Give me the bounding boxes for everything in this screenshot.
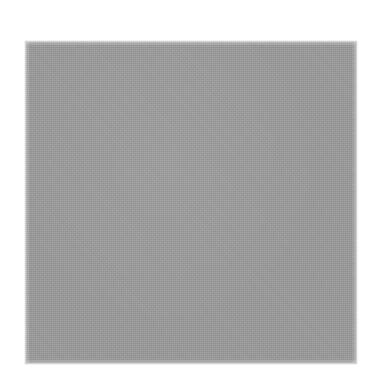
gray-square-swatch — [26, 42, 356, 363]
swatch-edge-feather — [26, 42, 356, 363]
image-canvas — [0, 0, 374, 392]
